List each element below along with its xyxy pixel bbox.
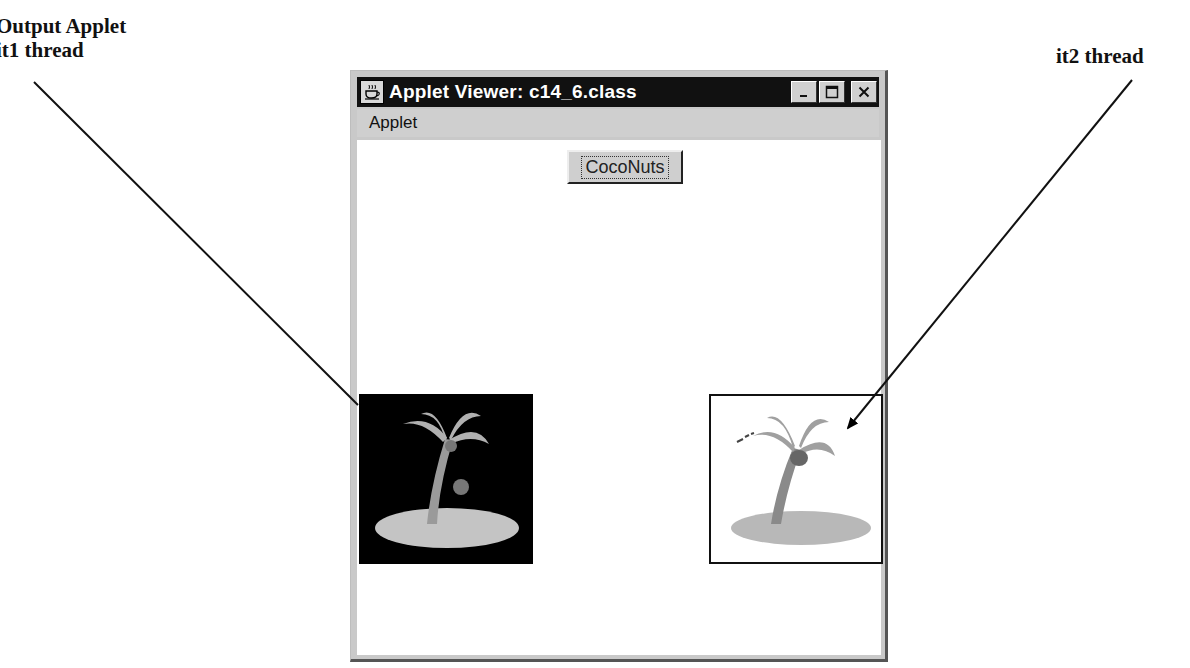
maximize-icon: [825, 85, 839, 99]
palm-island-image-it1: [359, 394, 533, 564]
window-controls: [791, 81, 877, 103]
close-button[interactable]: [851, 81, 877, 103]
annotation-output-applet-it1: Output Applet it1 thread: [0, 14, 126, 62]
minimize-icon: [798, 86, 810, 98]
coconuts-button-label: CocoNuts: [581, 156, 668, 179]
applet-area: CocoNuts: [357, 140, 881, 655]
pointer-line-it1: [34, 82, 358, 405]
menu-applet[interactable]: Applet: [369, 113, 417, 133]
palm-island-image-it2: [709, 394, 883, 564]
annotation-it2-thread: it2 thread: [1056, 44, 1144, 68]
window-title: Applet Viewer: c14_6.class: [389, 81, 637, 103]
pointer-arrow-it2: [848, 80, 1132, 428]
applet-viewer-window: Applet Viewer: c14_6.class Applet CocoNu…: [350, 70, 888, 662]
palm-tree-icon: [359, 394, 533, 564]
coconuts-button[interactable]: CocoNuts: [567, 150, 683, 184]
java-cup-icon: [360, 80, 384, 104]
title-bar[interactable]: Applet Viewer: c14_6.class: [357, 77, 879, 107]
annotation-left-line2: it1 thread: [0, 38, 126, 62]
close-icon: [858, 86, 870, 98]
maximize-button[interactable]: [819, 81, 845, 103]
palm-tree-icon: [711, 396, 881, 562]
annotation-left-line1: Output Applet: [0, 14, 126, 38]
menu-bar: Applet: [357, 109, 879, 137]
minimize-button[interactable]: [791, 81, 817, 103]
